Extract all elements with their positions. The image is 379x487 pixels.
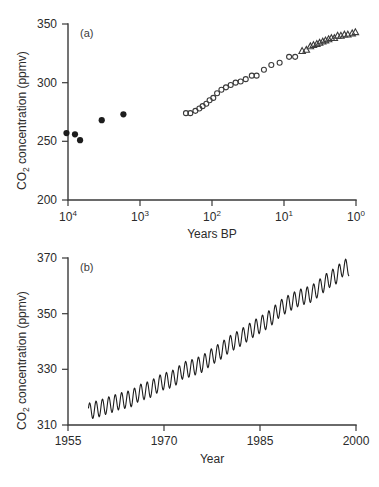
data-point [269, 63, 274, 68]
data-point [233, 80, 238, 85]
panel-b-ytick-330: 330 [37, 362, 57, 376]
panel-b-xtick-2000: 2000 [343, 434, 370, 448]
panel-a-axis-lines [68, 24, 356, 200]
panel-a-y-axis-title: CO2 concentration (ppmv) [15, 51, 31, 190]
svg-text:CO2 concentration (ppmv): CO2 concentration (ppmv) [15, 51, 31, 190]
panel-a-xtick-1e0: 100 [347, 209, 365, 224]
data-point [77, 137, 83, 143]
panel-b-xtick-1970: 1970 [151, 434, 178, 448]
data-point [120, 111, 126, 117]
panel-b-x-axis-title: Year [200, 452, 224, 466]
data-point [72, 131, 78, 137]
panel-b-y-axis-title: CO2 concentration (ppmv) [15, 291, 31, 430]
panel-b-ylabel-rest: concentration (ppmv) [15, 291, 29, 407]
panel-b-ytick-310: 310 [37, 418, 57, 432]
panel-a-xtick-1e2: 102 [203, 209, 221, 224]
panel-a-ylabel-rest: concentration (ppmv) [15, 51, 29, 167]
panel-b-ytick-370: 370 [37, 251, 57, 265]
panel-a-ylabel-main: CO [15, 172, 29, 190]
panel-a-xtick-1e4: 104 [59, 209, 77, 224]
panel-a-plot: CO2 concentration (ppmv) 200 250 300 350 [0, 0, 379, 240]
svg-text:CO2 concentration (ppmv): CO2 concentration (ppmv) [15, 291, 31, 430]
data-point [238, 79, 243, 84]
panel-a-label: (a) [80, 27, 93, 39]
data-point [228, 83, 233, 88]
panel-b-y-ticks: 310 330 350 370 [37, 251, 68, 432]
panel-a-y-ticks: 200 250 300 350 [37, 17, 68, 207]
data-point [243, 77, 248, 82]
panel-a-ytick-350: 350 [37, 17, 57, 31]
data-point [287, 54, 292, 59]
panel-a-x-axis-title: Years BP [187, 227, 237, 240]
data-point [277, 60, 282, 65]
panel-b-ylabel-main: CO [15, 412, 29, 430]
data-point [293, 54, 298, 59]
panel-a-x-ticks: 104 103 102 101 100 [59, 200, 365, 224]
panel-a-ytick-200: 200 [37, 193, 57, 207]
panel-b-x-ticks: 1955 1970 1985 2000 [55, 425, 370, 448]
panel-a-ytick-300: 300 [37, 76, 57, 90]
panel-b-xtick-1985: 1985 [247, 434, 274, 448]
panel-b-xtick-1955: 1955 [55, 434, 82, 448]
panel-b-ytick-350: 350 [37, 307, 57, 321]
panel-b-label: (b) [80, 261, 93, 273]
data-point [63, 130, 69, 136]
panel-a-xtick-1e3: 103 [131, 209, 149, 224]
panel-b-axis-lines [68, 258, 356, 425]
panel-b-plot: CO2 concentration (ppmv) 310 330 350 370 [0, 240, 379, 487]
data-point [254, 73, 259, 78]
data-point [99, 117, 105, 123]
data-point [249, 73, 254, 78]
data-point [261, 67, 266, 72]
panel-a-xtick-1e1: 101 [275, 209, 293, 224]
panel-a-ytick-250: 250 [37, 134, 57, 148]
co2-figure: CO2 concentration (ppmv) 200 250 300 350 [0, 0, 379, 487]
data-point [215, 91, 220, 96]
panel-a: CO2 concentration (ppmv) 200 250 300 350 [0, 0, 379, 240]
mauna-loa-co2-series [88, 259, 348, 418]
panel-a-data-markers [63, 29, 358, 143]
panel-b: CO2 concentration (ppmv) 310 330 350 370 [0, 240, 379, 487]
